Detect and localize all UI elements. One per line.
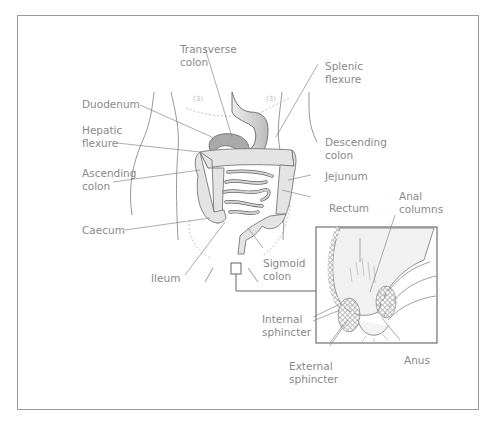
large-intestine bbox=[195, 149, 296, 254]
svg-text:(3): (3) bbox=[266, 95, 276, 103]
label-descending-colon: Descending colon bbox=[325, 136, 387, 161]
label-internal-sphincter: Internal sphincter bbox=[262, 313, 311, 338]
label-anus: Anus bbox=[404, 354, 430, 367]
label-transverse-colon: Transverse colon bbox=[180, 43, 237, 68]
label-duodenum: Duodenum bbox=[82, 98, 140, 111]
label-anal-columns: Anal columns bbox=[399, 190, 443, 215]
label-rectum: Rectum bbox=[329, 202, 369, 215]
label-ileum: Ileum bbox=[151, 272, 180, 285]
label-ascending-colon: Ascending colon bbox=[82, 167, 136, 192]
label-caecum: Caecum bbox=[82, 224, 125, 237]
label-splenic-flexure: Splenic flexure bbox=[325, 60, 363, 85]
label-sigmoid-colon: Sigmoid colon bbox=[263, 257, 305, 282]
inset-rectum-cross-section bbox=[316, 227, 437, 343]
svg-text:(3): (3) bbox=[193, 95, 203, 103]
inset-locator-box bbox=[231, 263, 241, 274]
label-external-sphincter: External sphincter bbox=[289, 360, 338, 385]
label-hepatic-flexure: Hepatic flexure bbox=[82, 124, 122, 149]
label-jejunum: Jejunum bbox=[325, 170, 368, 183]
